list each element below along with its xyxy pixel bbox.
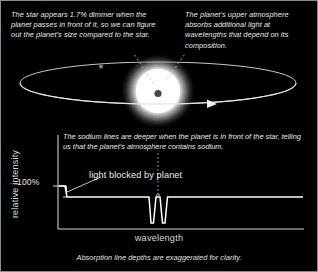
planet-on-orbit xyxy=(99,64,103,68)
exoplanet-transit-infographic: The star appears 1.7% dimmer when the pl… xyxy=(0,0,318,272)
spectrum-line xyxy=(59,186,303,223)
x-axis-label: wavelength xyxy=(1,233,317,243)
annotation-planet-atmosphere: The planet’s upper atmosphere absorbs ad… xyxy=(185,10,313,51)
annotation-star-dimming: The star appears 1.7% dimmer when the pl… xyxy=(11,10,161,41)
y-axis-tick-label-100: 100% xyxy=(17,177,40,187)
sodium-note-leader-tip xyxy=(157,194,160,197)
spectrum-chart: The sodium lines are deeper when the pla… xyxy=(1,129,317,247)
annotation-sodium-lines: The sodium lines are deeper when the pla… xyxy=(63,132,309,152)
transiting-planet xyxy=(154,90,161,97)
callout-light-blocked-by-planet: light blocked by planet xyxy=(89,170,182,182)
star-planet-orbit-diagram xyxy=(1,53,317,131)
orbit-direction-arrow xyxy=(207,100,217,108)
figure-caption: Absorption line depths are exaggerated f… xyxy=(1,253,317,262)
